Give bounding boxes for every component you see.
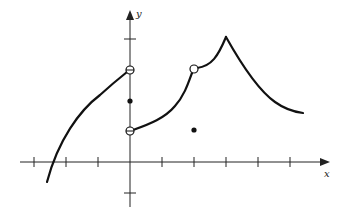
y-axis: y bbox=[124, 8, 142, 207]
function-graph: x y bbox=[0, 0, 347, 218]
x-axis-label: x bbox=[324, 168, 330, 179]
decreasing-branch-curve bbox=[226, 37, 303, 113]
closed-point-0-2 bbox=[127, 98, 132, 103]
left-branch-curve bbox=[47, 72, 127, 182]
upper-branch-curve bbox=[197, 37, 226, 68]
y-axis-arrow-icon bbox=[126, 10, 134, 20]
y-axis-label: y bbox=[135, 8, 142, 19]
open-point-2-3 bbox=[190, 65, 198, 73]
x-axis-arrow-icon bbox=[320, 158, 330, 166]
x-axis: x bbox=[20, 157, 330, 179]
closed-point-2-1 bbox=[191, 127, 196, 132]
middle-branch-curve bbox=[133, 73, 192, 130]
